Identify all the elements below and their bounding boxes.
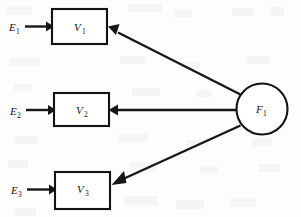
error-label-e2: E	[9, 105, 17, 117]
error-node-e1: E 1	[8, 21, 20, 36]
indicator-node-v1: V 1	[52, 9, 107, 44]
error-subscript-e2: 2	[17, 111, 21, 120]
indicator-node-v3: V 3	[55, 172, 110, 209]
edge-f1-to-v2	[109, 105, 237, 116]
error-subscript-e1: 1	[16, 27, 20, 36]
edge-f1-to-v1	[108, 24, 241, 95]
error-node-e2: E 2	[9, 105, 21, 120]
indicator-node-v2: V 2	[54, 93, 109, 126]
edge-f1-to-v3	[112, 126, 241, 186]
latent-label-f1: F	[255, 103, 263, 115]
indicator-subscript-v3: 3	[85, 189, 89, 198]
indicator-subscript-v1: 1	[82, 27, 86, 36]
diagram-canvas: V 1 V 2 V 3 F 1 E 1 E 2 E	[0, 0, 301, 217]
edge-e3-to-v3	[27, 185, 57, 195]
indicator-subscript-v2: 2	[84, 110, 88, 119]
edge-e2-to-v2	[26, 105, 56, 115]
error-node-e3: E 3	[10, 184, 22, 199]
error-subscript-e3: 3	[18, 190, 22, 199]
latent-subscript-f1: 1	[263, 109, 267, 118]
error-label-e1: E	[8, 21, 16, 33]
path-diagram-figure: V 1 V 2 V 3 F 1 E 1 E 2 E	[0, 0, 301, 217]
latent-node-f1: F 1	[237, 84, 288, 135]
edge-e1-to-v1	[25, 22, 54, 32]
error-label-e3: E	[10, 184, 18, 196]
